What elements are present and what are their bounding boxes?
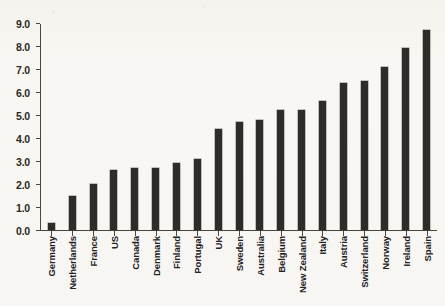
x-axis-label: Denmark — [150, 236, 161, 276]
y-axis-tick: 4.0 — [36, 138, 40, 139]
bar — [340, 83, 347, 230]
y-axis-tick: 9.0 — [36, 23, 40, 24]
bar-slot — [333, 24, 354, 230]
x-axis-label-slot: Finland — [166, 236, 187, 304]
bar-slot — [416, 24, 437, 230]
x-axis-label: Finland — [171, 236, 182, 269]
x-axis-label-slot: France — [83, 236, 104, 304]
y-axis-tick: 8.0 — [36, 46, 40, 47]
bar-slot — [124, 24, 145, 230]
x-axis-label-slot: New Zealand — [291, 236, 312, 304]
bar — [423, 30, 430, 230]
bar-slot — [270, 24, 291, 230]
bar-slot — [354, 24, 375, 230]
bar-slot — [83, 24, 104, 230]
bar — [277, 110, 284, 230]
x-axis-label-slot: Germany — [41, 236, 62, 304]
x-axis-label: US — [108, 236, 119, 249]
x-axis-label: Belgium — [275, 236, 286, 273]
x-axis-label-slot: Denmark — [145, 236, 166, 304]
bar — [152, 168, 159, 230]
y-axis-tick-label: 3.0 — [16, 156, 30, 168]
x-axis-label: Australia — [254, 236, 265, 276]
bar — [402, 48, 409, 230]
bar — [48, 223, 55, 230]
bar — [215, 129, 222, 230]
x-axis-label: Austria — [338, 236, 349, 268]
bar — [173, 163, 180, 230]
bar — [131, 168, 138, 230]
bar-slot — [166, 24, 187, 230]
bar — [90, 184, 97, 230]
x-axis-label: Spain — [421, 236, 432, 261]
x-axis-label-slot: Netherlands — [62, 236, 83, 304]
bar — [256, 120, 263, 230]
bar — [381, 67, 388, 230]
bar — [110, 170, 117, 230]
y-axis-tick: 2.0 — [36, 184, 40, 185]
x-axis-label-slot: Sweden — [229, 236, 250, 304]
x-axis-label: New Zealand — [296, 236, 307, 293]
y-axis-tick: 1.0 — [36, 207, 40, 208]
bar-slot — [229, 24, 250, 230]
x-axis-label: Germany — [46, 236, 57, 277]
bar — [298, 110, 305, 230]
x-axis-label: Canada — [129, 236, 140, 270]
bar-slot — [291, 24, 312, 230]
x-axis-labels: GermanyNetherlandsFranceUSCanadaDenmarkF… — [41, 236, 437, 304]
bar-slot — [208, 24, 229, 230]
y-axis-tick-label: 7.0 — [16, 64, 30, 76]
y-axis-tick-label: 9.0 — [16, 18, 30, 30]
bar — [361, 81, 368, 231]
x-axis-label: France — [88, 236, 99, 267]
bar-slot — [375, 24, 396, 230]
bar — [319, 101, 326, 230]
bar — [194, 159, 201, 230]
x-axis-label-slot: UK — [208, 236, 229, 304]
bar-slot — [104, 24, 125, 230]
y-axis-tick: 6.0 — [36, 92, 40, 93]
x-axis-label-slot: Austria — [333, 236, 354, 304]
bar-slot — [395, 24, 416, 230]
x-axis-label-slot: US — [104, 236, 125, 304]
bar-chart: 9.08.07.06.05.04.03.02.01.00.0 GermanyNe… — [0, 0, 445, 306]
x-axis-label-slot: Norway — [375, 236, 396, 304]
bar-slot — [187, 24, 208, 230]
y-axis-tick-label: 6.0 — [16, 87, 30, 99]
x-axis-label-slot: Canada — [124, 236, 145, 304]
bar-slot — [312, 24, 333, 230]
bar-slot — [62, 24, 83, 230]
y-axis-tick-label: 4.0 — [16, 133, 30, 145]
x-axis-label: Italy — [317, 236, 328, 255]
x-axis-label: Portugal — [192, 236, 203, 274]
y-axis-tick: 3.0 — [36, 161, 40, 162]
bar-slot — [249, 24, 270, 230]
x-axis-label: Sweden — [234, 236, 245, 271]
y-axis-tick-label: 5.0 — [16, 110, 30, 122]
bar-series — [41, 24, 437, 230]
x-axis-label: Switzerland — [359, 236, 370, 288]
x-axis-label-slot: Spain — [416, 236, 437, 304]
x-axis-label-slot: Switzerland — [354, 236, 375, 304]
x-axis-label-slot: Ireland — [395, 236, 416, 304]
bar-slot — [145, 24, 166, 230]
plot-area: 9.08.07.06.05.04.03.02.01.00.0 — [40, 24, 437, 231]
bar — [69, 196, 76, 231]
x-axis-label-slot: Australia — [249, 236, 270, 304]
y-axis-tick-label: 0.0 — [16, 225, 30, 237]
x-axis-label: Netherlands — [67, 236, 78, 290]
y-axis-tick: 0.0 — [36, 230, 40, 231]
x-axis-label-slot: Belgium — [270, 236, 291, 304]
y-axis-tick: 5.0 — [36, 115, 40, 116]
bar-slot — [41, 24, 62, 230]
y-axis-tick-label: 1.0 — [16, 202, 30, 214]
x-axis-label: Ireland — [400, 236, 411, 266]
y-axis-tick-label: 2.0 — [16, 179, 30, 191]
bar — [236, 122, 243, 230]
x-axis-label: UK — [213, 236, 224, 250]
y-axis-tick: 7.0 — [36, 69, 40, 70]
x-axis-label-slot: Italy — [312, 236, 333, 304]
y-axis-tick-label: 8.0 — [16, 41, 30, 53]
x-axis-label-slot: Portugal — [187, 236, 208, 304]
x-axis-label: Norway — [379, 236, 390, 270]
